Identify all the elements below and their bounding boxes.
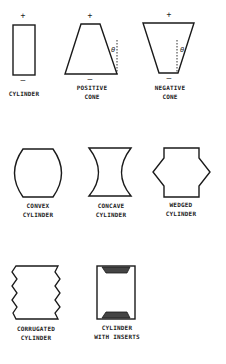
concave-cylinder-label: CONCAVE CYLINDER bbox=[88, 201, 134, 219]
concave-cylinder-shape bbox=[89, 148, 131, 196]
cylinder-plus-sign: + bbox=[18, 12, 28, 20]
corrugated-cylinder-shape bbox=[12, 266, 60, 319]
shapes-diagram bbox=[0, 0, 226, 364]
negative-cone-label: NEGATIVE CONE bbox=[148, 83, 192, 101]
convex-cylinder-shape bbox=[15, 149, 62, 197]
negative-cone-shape bbox=[143, 23, 194, 73]
negative-cone-plus-sign: + bbox=[164, 11, 174, 19]
cylinder-with-inserts-label: CYLINDER WITH INSERTS bbox=[89, 323, 145, 341]
wedged-cylinder-label: WEDGED CYLINDER bbox=[158, 200, 204, 218]
wedged-cylinder-shape bbox=[153, 148, 210, 197]
negative-cone-minus-sign: — bbox=[164, 75, 174, 83]
positive-cone-theta-symbol: θ bbox=[109, 46, 117, 54]
cylinder-minus-sign: — bbox=[18, 77, 28, 85]
corrugated-cylinder-label: CORRUGATED CYLINDER bbox=[10, 324, 62, 342]
positive-cone-label: POSITIVE CONE bbox=[70, 83, 114, 101]
cylinder-shape bbox=[13, 25, 35, 75]
cylinder-with-inserts-shape bbox=[97, 266, 135, 319]
top-insert bbox=[102, 267, 130, 273]
positive-cone-plus-sign: + bbox=[85, 12, 95, 20]
convex-cylinder-label: CONVEX CYLINDER bbox=[15, 201, 61, 219]
negative-cone-theta-symbol: θ bbox=[178, 46, 186, 54]
bottom-insert bbox=[102, 312, 130, 318]
cylinder-label: CYLINDER bbox=[3, 89, 45, 98]
